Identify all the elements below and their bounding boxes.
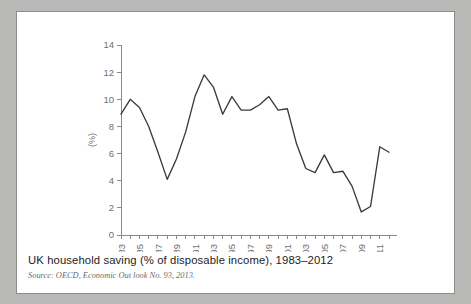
y-tick-label: 0 [109,229,114,240]
x-tick-label: 2003 [300,244,311,252]
x-tick-label: 2011 [374,244,385,252]
x-tick-label: 1991 [190,244,201,252]
x-tick-label: 2005 [319,244,330,252]
caption-block: UK household saving (% of disposable inc… [28,254,448,280]
axes-group [121,45,397,235]
figure-caption-source: Source: OECD, Economic Out look No. 93, … [28,271,448,280]
chart-plot-area: 02468101214 1983198519871989199119931995… [17,12,454,252]
x-tick-label: 1997 [245,244,256,252]
y-axis-label: (%) [87,133,97,147]
x-tick-label: 1993 [208,244,219,252]
y-tick-label: 2 [109,202,114,213]
figure-caption-title: UK household saving (% of disposable inc… [28,254,448,266]
x-tick-label: 1995 [226,244,237,252]
figure-card: 02468101214 1983198519871989199119931995… [16,11,455,294]
y-tick-label: 14 [103,39,114,50]
line-chart-svg: 02468101214 1983198519871989199119931995… [17,12,454,252]
y-tick-label: 6 [109,148,114,159]
x-tick-label: 1999 [263,244,274,252]
x-tick-label: 2009 [356,244,367,252]
x-tick-label: 1985 [134,244,145,252]
saving-rate-line [121,75,389,212]
y-tick-label: 4 [109,175,114,186]
x-tick-label: 1983 [116,244,127,252]
x-axis-ticks: 1983198519871989199119931995199719992001… [116,235,389,252]
y-tick-label: 10 [103,94,114,105]
y-tick-label: 12 [103,67,114,78]
x-tick-label: 1987 [153,244,164,252]
x-tick-label: 1989 [171,244,182,252]
y-axis-ticks: 02468101214 [103,39,121,240]
x-tick-label: 2001 [282,244,293,252]
y-tick-label: 8 [109,121,114,132]
x-tick-label: 2007 [337,244,348,252]
